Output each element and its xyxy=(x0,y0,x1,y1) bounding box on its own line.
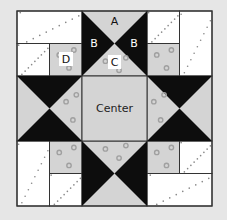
white-speckle xyxy=(193,161,195,163)
white-speckle xyxy=(37,169,39,171)
white-speckle xyxy=(39,35,41,37)
white-speckle xyxy=(210,20,212,22)
white-speckle xyxy=(71,18,73,20)
white-speckle xyxy=(31,64,33,66)
white-speckle xyxy=(148,12,150,14)
white-speckle xyxy=(161,31,163,33)
white-speckle xyxy=(21,202,23,204)
white-speckle xyxy=(58,25,60,27)
white-speckle xyxy=(18,44,20,46)
label-a: A xyxy=(111,15,119,28)
white-speckle xyxy=(208,178,210,180)
white-speckle xyxy=(190,59,192,61)
white-speckle xyxy=(31,182,33,184)
white-speckle xyxy=(47,48,49,50)
white-speckle xyxy=(24,195,26,197)
white-speckle xyxy=(76,181,78,183)
white-speckle xyxy=(28,189,30,191)
white-speckle xyxy=(180,142,182,144)
white-speckle xyxy=(210,145,212,147)
white-speckle xyxy=(32,38,34,40)
white-speckle xyxy=(171,22,173,24)
white-speckle xyxy=(162,200,164,202)
white-speckle xyxy=(174,18,176,20)
white-speckle xyxy=(78,15,80,17)
gray-patch xyxy=(147,141,180,174)
white-patch xyxy=(147,11,180,44)
white-patch xyxy=(17,11,82,44)
white-speckle xyxy=(184,72,186,74)
white-patch xyxy=(17,44,50,77)
white-speckle xyxy=(70,187,72,189)
white-speckle xyxy=(41,54,43,56)
white-speckle xyxy=(182,191,184,193)
white-patch xyxy=(50,174,83,207)
white-speckle xyxy=(45,31,47,33)
white-speckle xyxy=(177,15,179,17)
gray-patch xyxy=(147,44,180,77)
white-speckle xyxy=(203,33,205,35)
white-speckle xyxy=(203,152,205,154)
white-speckle xyxy=(164,28,166,30)
white-speckle xyxy=(197,46,199,48)
white-speckle xyxy=(65,22,67,24)
white-speckle xyxy=(34,176,36,178)
white-speckle xyxy=(200,155,202,157)
white-speckle xyxy=(44,156,46,158)
white-speckle xyxy=(195,184,197,186)
white-speckle xyxy=(50,174,52,176)
white-speckle xyxy=(206,148,208,150)
white-speckle xyxy=(34,61,36,63)
white-speckle xyxy=(73,184,75,186)
white-speckle xyxy=(201,181,203,183)
white-speckle xyxy=(149,174,151,176)
white-patch xyxy=(180,11,213,76)
white-speckle xyxy=(28,67,30,69)
white-speckle xyxy=(41,163,43,165)
white-speckle xyxy=(197,158,199,160)
white-speckle xyxy=(154,38,156,40)
white-speckle xyxy=(80,178,82,180)
white-speckle xyxy=(151,41,153,43)
white-speckle xyxy=(60,197,62,199)
label-center: Center xyxy=(96,102,134,115)
white-speckle xyxy=(63,194,65,196)
white-patch xyxy=(180,141,213,174)
gray-patch xyxy=(50,141,83,174)
white-patch xyxy=(17,141,50,206)
white-speckle xyxy=(26,41,28,43)
white-speckle xyxy=(175,194,177,196)
white-speckle xyxy=(206,26,208,28)
label-c: C xyxy=(111,56,119,69)
white-speckle xyxy=(187,65,189,67)
label-b-left: B xyxy=(90,37,98,50)
quilt-block-diagram: A B B C D Center xyxy=(0,0,227,220)
white-speckle xyxy=(44,51,46,53)
white-speckle xyxy=(57,200,59,202)
white-speckle xyxy=(47,150,49,152)
white-speckle xyxy=(156,204,158,206)
label-b-right: B xyxy=(130,37,138,50)
white-speckle xyxy=(193,52,195,54)
white-speckle xyxy=(180,13,182,15)
white-speckle xyxy=(67,191,69,193)
white-speckle xyxy=(18,143,20,145)
white-speckle xyxy=(184,171,186,173)
white-patch xyxy=(147,174,212,207)
white-speckle xyxy=(190,165,192,167)
white-speckle xyxy=(200,39,202,41)
white-speckle xyxy=(187,168,189,170)
label-d: D xyxy=(62,53,70,66)
white-speckle xyxy=(169,197,171,199)
white-speckle xyxy=(24,70,26,72)
white-speckle xyxy=(158,35,160,37)
white-speckle xyxy=(52,28,54,30)
white-speckle xyxy=(167,25,169,27)
white-speckle xyxy=(19,12,21,14)
white-speckle xyxy=(54,204,56,206)
white-speckle xyxy=(21,74,23,76)
white-speckle xyxy=(37,57,39,59)
white-speckle xyxy=(188,187,190,189)
